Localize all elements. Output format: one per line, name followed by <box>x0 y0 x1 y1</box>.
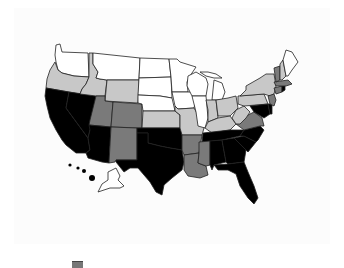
state-MS <box>198 141 210 166</box>
state-MT <box>93 53 140 80</box>
state-AZ <box>86 125 111 163</box>
state-NM <box>109 127 137 163</box>
state-CO <box>111 102 142 128</box>
state-ME <box>283 50 298 76</box>
state-KS <box>142 111 180 128</box>
state-ND <box>139 58 171 78</box>
legend <box>72 261 89 267</box>
state-NE <box>138 95 175 111</box>
state-WY <box>105 80 139 103</box>
legend-swatch <box>72 261 83 268</box>
state-FL <box>214 162 258 204</box>
state-AK <box>98 168 124 192</box>
state-RI <box>282 86 285 92</box>
state-HI <box>68 163 95 181</box>
state-NY <box>240 74 276 96</box>
state-MI <box>212 80 225 100</box>
